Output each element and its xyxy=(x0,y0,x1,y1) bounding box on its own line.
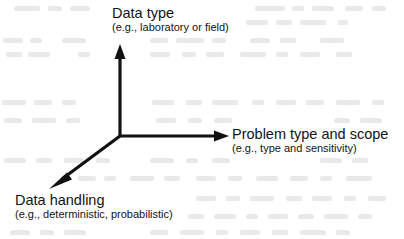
axis-data-type xyxy=(115,44,126,136)
axis-label-problem-type-and-scope-title: Problem type and scope xyxy=(232,126,388,142)
axis-label-data-type: Data type (e.g., laboratory or field) xyxy=(112,5,229,34)
axis-label-data-type-title: Data type xyxy=(112,5,229,21)
axis-label-data-type-subtitle: (e.g., laboratory or field) xyxy=(112,21,229,34)
axis-problem-type-and-scope xyxy=(120,131,229,142)
axis-label-problem-type-and-scope-subtitle: (e.g., type and sensitivity) xyxy=(232,142,388,155)
axis-label-data-handling-title: Data handling xyxy=(15,192,173,208)
axis-label-data-handling: Data handling (e.g., deterministic, prob… xyxy=(15,192,173,221)
axis-data-handling xyxy=(49,136,120,189)
axis-label-data-handling-subtitle: (e.g., deterministic, probabilistic) xyxy=(15,208,173,221)
diagram-canvas: Data type (e.g., laboratory or field) Pr… xyxy=(0,0,404,239)
axis-label-problem-type-and-scope: Problem type and scope (e.g., type and s… xyxy=(232,126,388,155)
